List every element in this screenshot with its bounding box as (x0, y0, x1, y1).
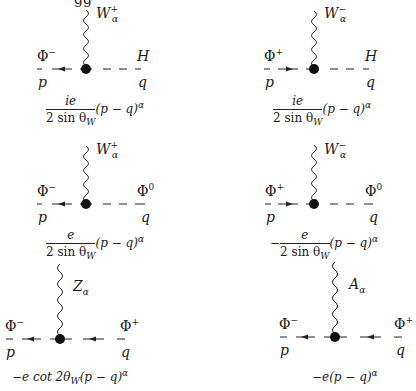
left-momentum-label: p (265, 75, 274, 89)
vertex-rule: ie2 sin θW(p − q)α (273, 94, 371, 125)
feynman-vertex-phiminus-z-phiplus: Zα Φ− p Φ+ q −e cot 2θW(p − q)α (0, 260, 208, 391)
vertex-rule: ie2 sin θW(p − q)α (46, 94, 144, 125)
right-momentum-label: q (141, 210, 150, 224)
boson-label: W−α (324, 142, 346, 156)
boson-label: W+α (96, 6, 118, 20)
boson-label: Aα (349, 277, 365, 291)
right-field-label: Φ0 (365, 184, 382, 198)
right-field-label: Φ0 (137, 184, 154, 198)
left-field-label: Φ+ (264, 49, 283, 63)
left-momentum-label: p (38, 75, 47, 89)
right-momentum-label: q (396, 343, 405, 357)
right-momentum-label: q (121, 345, 130, 359)
left-field-label: Φ− (37, 184, 56, 198)
left-field-label: Φ+ (265, 184, 284, 198)
vertex-rule: e2 sin θW(p − q)α (46, 228, 144, 259)
left-field-label: Φ− (5, 319, 24, 333)
boson-label: Zα (73, 279, 89, 293)
left-momentum-label: p (6, 345, 15, 359)
feynman-vertex-phiplus-wminus-higgs: W−α Φ+ p H q ie2 sin θW(p − q)α (208, 0, 416, 130)
feynman-vertex-phiplus-wminus-phi0: W−α Φ+ p Φ0 q −e2 sin θW(p − q)α (208, 130, 416, 260)
right-momentum-label: q (138, 75, 147, 89)
right-field-label: H (137, 49, 149, 63)
left-field-label: Φ− (279, 317, 298, 331)
vertex-rule: −e2 sin θW(p − q)α (270, 228, 378, 259)
right-momentum-label: q (366, 75, 375, 89)
right-momentum-label: q (369, 210, 378, 224)
right-field-label: Φ+ (120, 319, 139, 333)
vertex-rule: −e(p − q)α (312, 370, 378, 384)
feynman-vertex-phiminus-wplus-phi0: W+α Φ− p Φ0 q e2 sin θW(p − q)α (0, 130, 208, 260)
left-field-label: Φ− (37, 49, 56, 63)
boson-label: W+α (96, 142, 118, 156)
left-momentum-label: p (266, 210, 275, 224)
feynman-vertex-phiminus-wplus-higgs: W+α Φ− p H q ie2 sin θW(p − q)α (0, 0, 208, 130)
left-momentum-label: p (38, 210, 47, 224)
right-field-label: Φ+ (394, 317, 413, 331)
vertex-rule: −e cot 2θW(p − q)α (12, 370, 128, 384)
feynman-vertex-phiminus-photon-phiplus: Aα Φ− p Φ+ q −e(p − q)α (208, 260, 416, 391)
left-momentum-label: p (280, 343, 289, 357)
boson-label: W−α (324, 6, 346, 20)
right-field-label: H (365, 49, 377, 63)
